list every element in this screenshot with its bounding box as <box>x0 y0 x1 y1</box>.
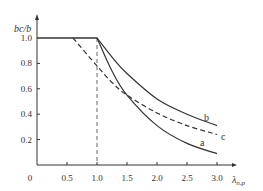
x-axis-label: λn.p <box>231 174 246 187</box>
y-tick-label: 0.2 <box>21 135 32 145</box>
x-tick-label: 2.0 <box>151 173 163 183</box>
x-tick-label: 0 <box>28 173 33 183</box>
x-tick-label: 1.5 <box>121 173 133 183</box>
series-b-line <box>37 38 217 126</box>
y-axis-arrow <box>35 14 39 20</box>
x-axis-arrow <box>232 163 237 167</box>
y-tick-label: 1.0 <box>21 33 33 43</box>
y-tick-label: 0.6 <box>21 84 33 94</box>
series-a-line <box>37 38 217 154</box>
x-tick-label: 0.5 <box>61 173 73 183</box>
x-tick-label: 1.0 <box>91 173 103 183</box>
y-tick-label: 0.4 <box>21 109 33 119</box>
x-axis-label-sub: n.p <box>236 179 245 187</box>
ticks: 00.51.01.52.02.53.00.20.40.60.81.0 <box>21 33 223 183</box>
series-c-label: c <box>221 131 226 142</box>
y-axis-label: bc/b <box>14 23 31 34</box>
series-b-label: b <box>204 112 209 123</box>
x-tick-label: 2.5 <box>181 173 193 183</box>
chart: 00.51.01.52.02.53.00.20.40.60.81.0 a b c… <box>0 0 263 191</box>
series-c-line <box>73 38 217 135</box>
series-a-label: a <box>200 137 205 148</box>
x-tick-label: 3.0 <box>211 173 223 183</box>
y-tick-label: 0.8 <box>21 58 33 68</box>
